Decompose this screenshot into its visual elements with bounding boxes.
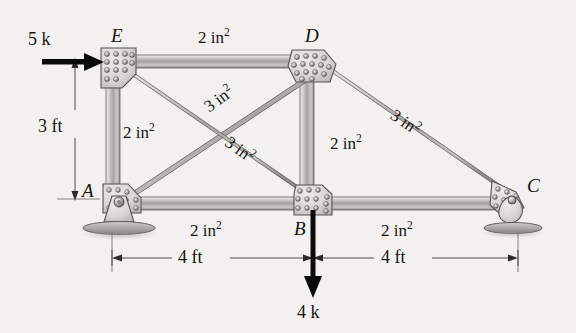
truss-drawing bbox=[0, 0, 576, 333]
area-label-AB: 2 in2 bbox=[190, 220, 222, 239]
area-label-DB-exponent: 2 bbox=[356, 132, 362, 145]
area-label-BC-text: 2 in bbox=[381, 221, 407, 240]
load-4k-arrow bbox=[304, 210, 322, 298]
area-label-AE: 2 in2 bbox=[123, 122, 155, 141]
joint-label-E: E bbox=[111, 26, 123, 45]
area-label-ED-exponent: 2 bbox=[224, 26, 230, 39]
member-AB bbox=[112, 197, 316, 210]
area-label-BC-exponent: 2 bbox=[407, 219, 413, 232]
area-label-ED-text: 2 in bbox=[198, 28, 224, 47]
member-ED bbox=[112, 55, 317, 68]
load-5k-arrow bbox=[42, 53, 104, 71]
member-BC bbox=[310, 197, 515, 210]
load-label-5k: 5 k bbox=[28, 30, 51, 48]
area-label-AB-exponent: 2 bbox=[216, 219, 222, 232]
dim-label-4ft-left: 4 ft bbox=[178, 248, 203, 266]
dim-label-4ft-right: 4 ft bbox=[381, 248, 406, 266]
joint-E bbox=[101, 48, 136, 88]
dim-label-3ft: 3 ft bbox=[38, 117, 63, 135]
area-label-ED: 2 in2 bbox=[198, 27, 230, 46]
truss-figure: E D A B C 2 in2 2 in2 3 in2 3 in2 2 in2 … bbox=[0, 0, 576, 333]
joint-label-C: C bbox=[527, 176, 540, 195]
joint-label-D: D bbox=[305, 26, 319, 45]
area-label-AB-text: 2 in bbox=[190, 221, 216, 240]
area-label-BC: 2 in2 bbox=[381, 220, 413, 239]
area-label-AE-text: 2 in bbox=[123, 123, 149, 142]
area-label-DB-text: 2 in bbox=[330, 134, 356, 153]
area-label-DB: 2 in2 bbox=[330, 133, 362, 152]
load-label-4k: 4 k bbox=[297, 303, 320, 321]
area-label-AE-exponent: 2 bbox=[149, 121, 155, 134]
joint-label-B: B bbox=[294, 219, 306, 238]
joint-D bbox=[288, 50, 336, 82]
joint-label-A: A bbox=[82, 181, 94, 200]
